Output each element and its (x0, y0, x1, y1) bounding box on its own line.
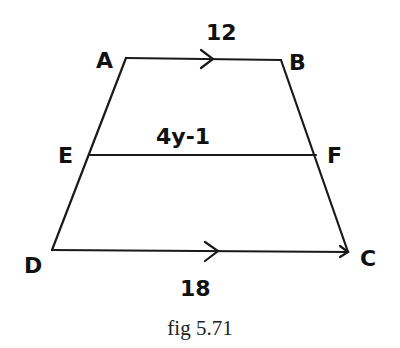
length-label-dc: 18 (180, 276, 211, 301)
figure-caption: fig 5.71 (167, 316, 232, 340)
vertex-label-e: E (58, 143, 73, 168)
vertex-label-f: F (327, 143, 342, 168)
vertex-label-b: B (289, 50, 306, 75)
trapezoid-diagram: A B E F D C 12 4y-1 18 fig 5.71 (0, 0, 400, 348)
vertex-label-c: C (360, 246, 376, 271)
segment-dc (52, 250, 348, 252)
length-label-ef: 4y-1 (156, 124, 210, 149)
segment-ab (126, 58, 281, 60)
vertex-label-a: A (96, 48, 113, 73)
vertex-label-d: D (24, 253, 42, 278)
length-label-ab: 12 (206, 20, 237, 45)
